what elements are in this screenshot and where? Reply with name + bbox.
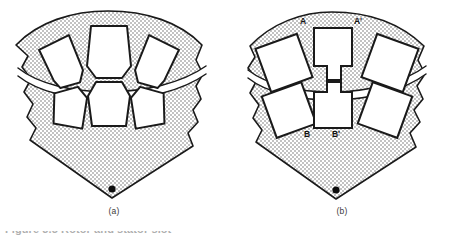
label-b: B: [304, 129, 310, 139]
rotor-slot-center-a: [88, 82, 130, 126]
panel-b-svg: A A' B B': [228, 0, 456, 212]
subcaption-a: (a): [0, 206, 228, 216]
figure-caption-clipped: Figure 3.5 Rotor and stator slot: [0, 231, 456, 240]
subcaption-b: (b): [228, 206, 456, 216]
label-a-prime: A': [354, 16, 362, 26]
panel-b-diagram: A A' B B': [228, 0, 456, 212]
panel-a-diagram: [0, 0, 228, 212]
label-a: A: [300, 16, 306, 26]
figure-root: A A' B B' (a) (b) Figure 3.5 Rotor and s…: [0, 0, 456, 240]
stator-slot-center-a: [87, 26, 131, 78]
shaft-center-dot-b: [332, 186, 339, 193]
label-b-prime: B': [332, 129, 340, 139]
figure-caption-text: Figure 3.5 Rotor and stator slot: [5, 231, 171, 235]
panel-a-svg: [0, 0, 228, 212]
shaft-center-dot-a: [108, 185, 115, 192]
